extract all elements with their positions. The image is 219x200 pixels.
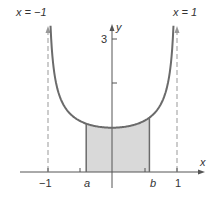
asymptote-right-label: x = 1 bbox=[172, 6, 197, 18]
y-axis-arrow bbox=[110, 24, 115, 31]
asymptote-left-label: x = −1 bbox=[15, 6, 47, 18]
asymptote-right-arrow bbox=[175, 26, 180, 33]
x-axis-label: x bbox=[199, 156, 206, 168]
graph: x = −1 x = 1 3 y x −1 a b 1 bbox=[0, 0, 219, 200]
x-tick-label-one: 1 bbox=[175, 177, 181, 189]
y-axis-label: y bbox=[115, 21, 123, 33]
x-tick-label-b: b bbox=[150, 177, 156, 189]
x-tick-label-a: a bbox=[84, 177, 90, 189]
x-axis-arrow bbox=[198, 170, 205, 175]
x-tick-label-neg-one: −1 bbox=[39, 177, 52, 189]
y-tick-label-3: 3 bbox=[101, 33, 107, 45]
